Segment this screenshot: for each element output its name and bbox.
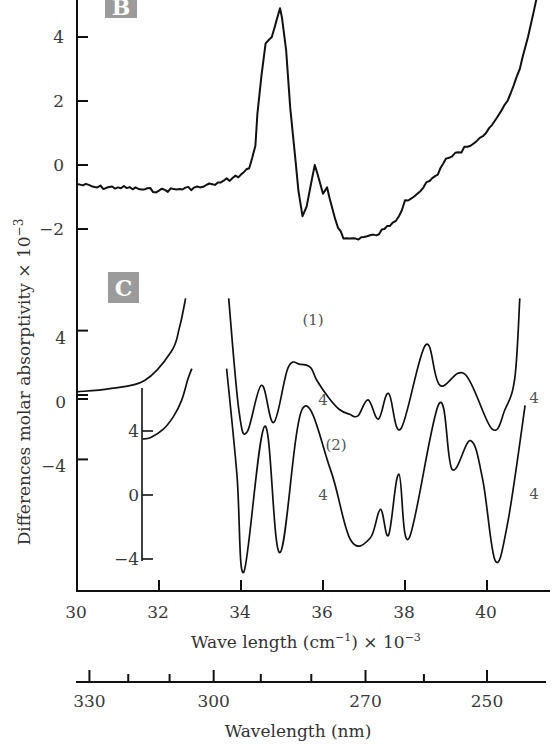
x-tick-label: 34 — [229, 602, 251, 622]
panel-b-ytick-label: 0 — [53, 155, 64, 175]
nm-tick-label: 250 — [471, 691, 503, 711]
nm-tick-label: 300 — [197, 691, 229, 711]
series-b-line — [77, 0, 536, 240]
series-1-line-right — [229, 298, 520, 434]
panel-b-ytick-label: −2 — [39, 219, 64, 239]
series-1-line-left — [77, 298, 186, 391]
curve-2-label: (2) — [325, 436, 346, 454]
y-axis-title-text: Differences molar absorptivity × 10 — [14, 236, 34, 545]
x-tick-label: 40 — [475, 602, 497, 622]
panel-b-label: B — [105, 0, 137, 20]
scale-mark-right-lower: 4 — [529, 485, 539, 503]
x-axis-title: Wave length (cm−1) × 10−3 — [191, 631, 421, 652]
nm-axis-title: Wavelength (nm) — [225, 721, 372, 741]
nm-ticks: 330300270250 — [73, 670, 503, 711]
nm-tick-label: 330 — [73, 691, 105, 711]
x-axis-title-sup1: −1 — [335, 631, 351, 644]
panel-b-ytick-label: 2 — [53, 91, 64, 111]
x-tick-label: 38 — [393, 602, 415, 622]
panel-c-ytick-label: −4 — [41, 456, 66, 476]
panel-b-ytick-label: 4 — [53, 27, 64, 47]
x-tick-label: 32 — [147, 602, 169, 622]
y-axis-title: Differences molar absorptivity × 10−3 — [12, 219, 34, 546]
spectra-figure: B C 420−2 40−4 40−4 303234363840 (1) (2)… — [0, 0, 556, 744]
inset-ytick-label: 4 — [128, 421, 139, 441]
x-axis-title-part1: Wave length (cm — [191, 632, 335, 652]
inset-ytick-label: −4 — [114, 549, 139, 569]
scale-mark-mid-upper: 4 — [318, 391, 328, 409]
curve-1-label: (1) — [302, 311, 323, 329]
panel-c-y-ticks: 40−4 — [41, 328, 88, 477]
panel-c-label: C — [108, 272, 139, 303]
panel-c-ytick-label: 0 — [55, 392, 66, 412]
y-axis-title-exponent: −3 — [12, 219, 26, 237]
panel-b-letter: B — [112, 0, 131, 20]
x-axis-title-part2: ) × 10 — [351, 632, 404, 652]
nm-tick-label: 270 — [349, 691, 381, 711]
panel-c-letter: C — [115, 275, 133, 301]
scale-mark-mid-lower: 4 — [318, 486, 328, 504]
inset-ytick-label: 0 — [128, 485, 139, 505]
x-axis-title-sup2: −3 — [405, 631, 421, 644]
series-2-line-right — [227, 369, 525, 573]
panel-c-ytick-label: 4 — [55, 328, 66, 348]
curves — [77, 0, 536, 573]
x-tick-label: 30 — [65, 602, 87, 622]
x-tick-label: 36 — [311, 602, 333, 622]
x-ticks: 303234363840 — [65, 580, 497, 622]
series-2-line-left — [143, 369, 192, 439]
panel-b-y-ticks: 420−2 — [39, 27, 88, 239]
scale-mark-right-upper: 4 — [529, 389, 539, 407]
inset-y-ticks: 40−4 — [114, 421, 153, 569]
